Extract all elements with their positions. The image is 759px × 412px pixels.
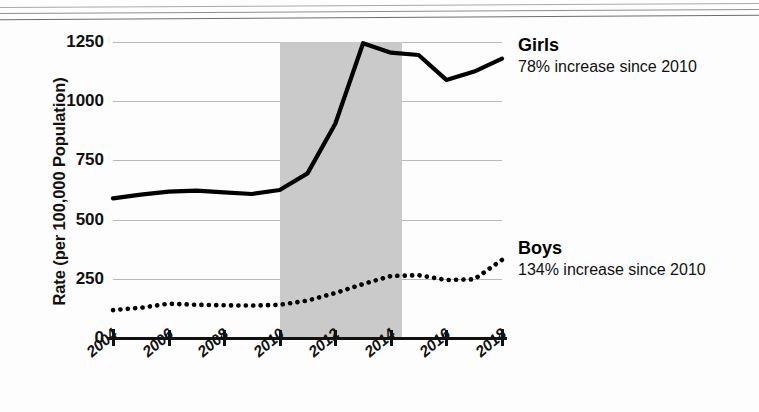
series-annotation-girls: Girls 78% increase since 2010 (518, 36, 697, 76)
series-path-boys (113, 260, 502, 310)
y-tick-label: 1250 (46, 32, 104, 52)
series-path-girls (113, 43, 502, 198)
y-tick-label: 1000 (46, 91, 104, 111)
y-tick-label: 250 (46, 269, 104, 289)
boys-increase-text: 134% increase since 2010 (518, 261, 706, 279)
chart-page: Rate (per 100,000 Population) 0250500750… (0, 0, 759, 412)
plot-area (113, 42, 502, 338)
series-lines (113, 42, 502, 338)
girls-label: Girls (518, 36, 697, 55)
boys-label: Boys (518, 239, 706, 258)
y-tick-label: 750 (46, 150, 104, 170)
y-tick-label: 500 (46, 210, 104, 230)
line-chart: Rate (per 100,000 Population) 0250500750… (0, 0, 759, 412)
series-annotation-boys: Boys 134% increase since 2010 (518, 239, 706, 279)
girls-increase-text: 78% increase since 2010 (518, 58, 697, 76)
